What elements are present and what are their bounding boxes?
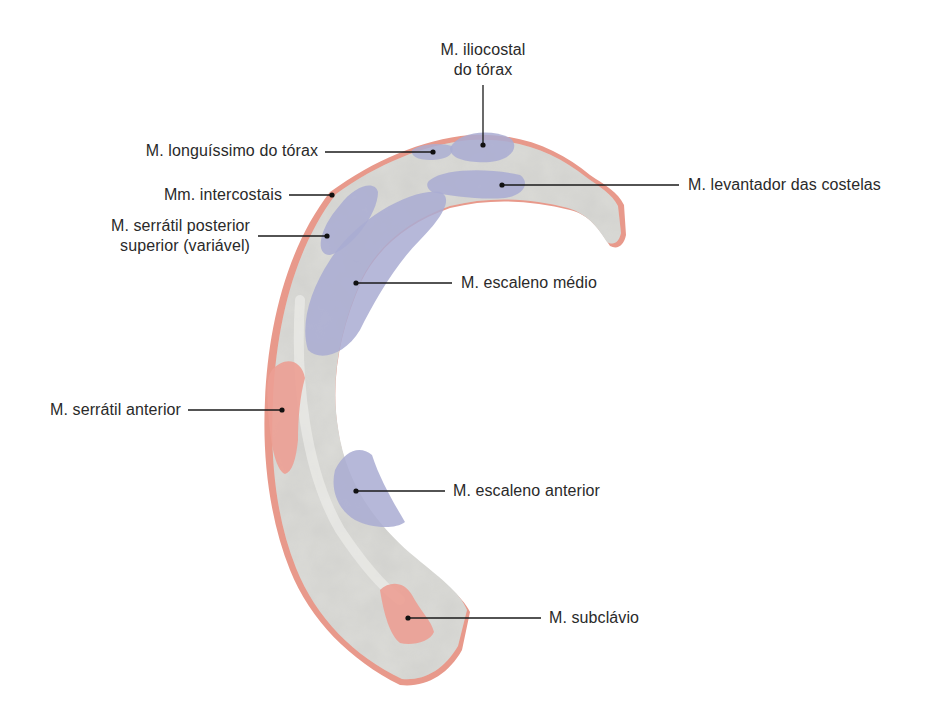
label-longuissimo: M. longuíssimo do tórax bbox=[110, 141, 318, 161]
label-intercostais: Mm. intercostais bbox=[100, 185, 282, 205]
label-serratil-posterior-line1: M. serrátil posterior bbox=[40, 216, 250, 236]
label-subclavio: M. subclávio bbox=[549, 608, 639, 628]
label-levantador: M. levantador das costelas bbox=[688, 175, 881, 195]
rib-diagram bbox=[0, 0, 925, 718]
label-serratil-posterior-line2: superior (variável) bbox=[40, 236, 250, 256]
label-serratil-posterior: M. serrátil posterior superior (variável… bbox=[40, 216, 250, 256]
label-iliocostal-line1: M. iliocostal bbox=[433, 40, 533, 60]
label-escaleno-medio: M. escaleno médio bbox=[461, 273, 597, 293]
label-serratil-anterior: M. serrátil anterior bbox=[20, 400, 181, 420]
label-iliocostal-line2: do tórax bbox=[433, 60, 533, 80]
rib-bone-texture bbox=[272, 140, 621, 680]
label-iliocostal: M. iliocostal do tórax bbox=[433, 40, 533, 80]
label-escaleno-anterior: M. escaleno anterior bbox=[453, 481, 600, 501]
